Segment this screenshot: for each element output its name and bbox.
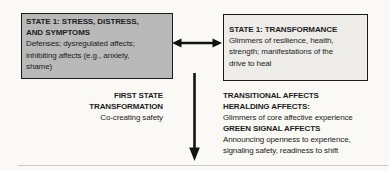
state1-transformance-body-line3: drive to heal <box>229 58 364 69</box>
diagram-canvas: STATE 1: STRESS, DISTRESS, AND SYMPTOMS … <box>0 0 390 171</box>
state1-transformance-body-line1: Glimmers of resilience, health, <box>229 35 364 46</box>
state1-transformance-title: STATE 1: TRANSFORMANCE <box>229 24 364 35</box>
heralding-affects-body: Glimmers of core affective experience <box>223 112 353 123</box>
state1-stress-body-line3: shame) <box>26 61 169 72</box>
state1-transformance-body-line2: strength; manifestations of the <box>229 46 364 57</box>
state1-stress-body-line1: Defenses; dysregulated affects; <box>26 38 169 49</box>
state1-stress-body-line2: inhibiting affects (e.g., anxiety, <box>26 50 169 61</box>
first-state-transformation-body: Co-creating safety <box>40 112 163 123</box>
transitional-affects-heading: TRANSITIONAL AFFECTS <box>223 90 353 101</box>
first-state-transformation-heading-line1: FIRST STATE <box>40 90 163 101</box>
green-signal-affects-body-line2: signaling safety, readiness to shift <box>223 145 353 156</box>
state1-stress-box: STATE 1: STRESS, DISTRESS, AND SYMPTOMS … <box>21 13 173 79</box>
green-signal-affects-body-line1: Announcing openness to experience, <box>223 134 353 145</box>
first-state-transformation-heading-line2: TRANSFORMATION <box>40 101 163 112</box>
transitional-affects-label: TRANSITIONAL AFFECTS HERALDING AFFECTS: … <box>223 90 353 156</box>
first-state-transformation-label: FIRST STATE TRANSFORMATION Co-creating s… <box>40 90 163 123</box>
bottom-divider <box>18 165 388 166</box>
heralding-affects-heading: HERALDING AFFECTS: <box>223 101 353 112</box>
state1-stress-title-line2: AND SYMPTOMS <box>26 27 169 38</box>
green-signal-affects-heading: GREEN SIGNAL AFFECTS <box>223 123 353 134</box>
bidirectional-arrow-icon <box>171 36 223 50</box>
state1-stress-title-line1: STATE 1: STRESS, DISTRESS, <box>26 16 169 27</box>
down-arrow-icon <box>187 72 202 162</box>
state1-transformance-box: STATE 1: TRANSFORMANCE Glimmers of resil… <box>223 14 368 81</box>
